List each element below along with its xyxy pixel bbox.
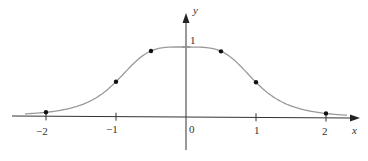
x-axis-arrow-icon [350,115,360,122]
x-tick-label--2: −2 [36,125,48,137]
x-axis [12,116,352,118]
x-tick-label-1: 1 [254,124,260,136]
x-tick-label--1: −1 [106,123,118,135]
chart: −2 −1 0 1 2 1 x y [0,0,368,161]
y-tick-label-1: 1 [190,34,196,46]
data-point [149,49,153,53]
data-point [44,110,48,114]
y-axis-arrow-icon [183,13,190,23]
y-axis-label: y [192,4,198,16]
data-point [254,80,258,84]
data-point [114,80,118,84]
data-point [324,111,328,115]
x-axis-label: x [351,124,357,136]
data-point [219,49,223,53]
origin-label: 0 [189,123,195,135]
x-tick-label-2: 2 [322,125,328,137]
